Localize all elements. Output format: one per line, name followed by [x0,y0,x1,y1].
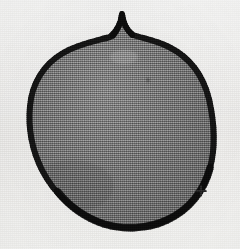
interior-speck [147,79,150,82]
figure-canvas: Scanned halftone illustration of a round… [0,0,240,249]
specimen-illustration [0,0,240,249]
interior-highlight-smudge [110,50,138,64]
halftone-stipple-texture [0,0,240,249]
